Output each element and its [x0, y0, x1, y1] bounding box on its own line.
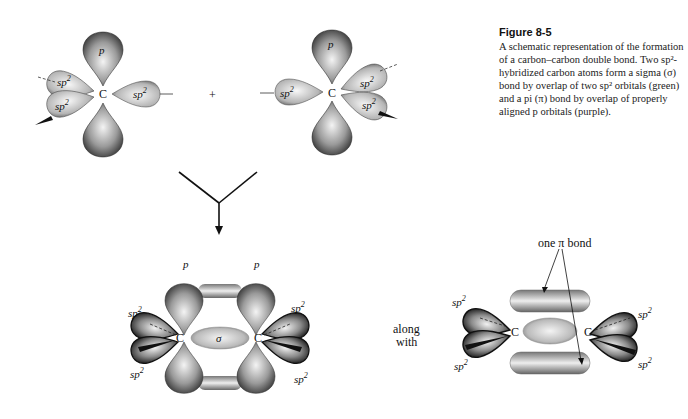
reaction-arrow — [179, 172, 257, 235]
svg-text:p: p — [253, 258, 260, 270]
svg-text:C: C — [328, 86, 336, 100]
svg-text:sp2: sp2 — [291, 300, 305, 314]
figure-caption: Figure 8-5 A schematic representation of… — [499, 26, 685, 118]
along-with-text: along — [393, 322, 420, 336]
caption-text: A schematic representation of the format… — [499, 41, 684, 117]
svg-text:p: p — [327, 38, 334, 50]
svg-text:sp2: sp2 — [454, 358, 468, 372]
svg-text:C: C — [254, 331, 262, 345]
svg-text:sp2: sp2 — [638, 356, 652, 370]
svg-text:sp2: sp2 — [130, 366, 144, 380]
svg-text:C: C — [511, 325, 519, 339]
ethylene-sigma-pi: σ C C p p sp2 sp2 sp2 sp2 — [128, 258, 312, 393]
figure-number: Figure 8-5 — [499, 26, 685, 39]
svg-text:σ: σ — [216, 332, 222, 344]
svg-text:p: p — [182, 258, 189, 270]
carbon-atom-right: p sp2 sp2 sp2 C — [260, 30, 398, 155]
svg-text:C: C — [584, 325, 592, 339]
svg-text:C: C — [176, 331, 184, 345]
svg-text:sp2: sp2 — [452, 294, 466, 308]
pi-bond-label: one π bond — [538, 236, 591, 250]
svg-text:p: p — [98, 44, 105, 56]
carbon-atom-left: p sp2 sp2 sp2 C — [35, 32, 173, 157]
svg-text:C: C — [99, 87, 107, 101]
svg-text:sp2: sp2 — [294, 371, 308, 385]
ethylene-pi-bond: C C sp2 sp2 sp2 sp2 one π bond — [452, 236, 652, 374]
plus-sign: + — [209, 88, 216, 102]
along-with-text-2: with — [396, 335, 417, 349]
svg-text:sp2: sp2 — [638, 306, 652, 320]
